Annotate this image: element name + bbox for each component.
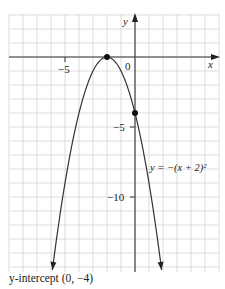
tick-label-y-neg10: −10 <box>107 191 125 203</box>
x-axis-label: x <box>207 58 213 70</box>
vertex-point <box>104 54 110 60</box>
tick-label-origin: 0 <box>125 60 131 72</box>
tick-label-y-neg5: −5 <box>113 121 125 133</box>
grid <box>9 14 219 272</box>
y-axis-arrow-icon <box>132 13 138 22</box>
parabola-chart: x y −5 0 −5 −10 y = −(x + 2)² <box>0 0 225 272</box>
y-axis-label: y <box>122 15 128 27</box>
y-intercept-point <box>132 110 138 116</box>
y-intercept-caption: y-intercept (0, −4) <box>9 272 93 284</box>
tick-label-x-neg5: −5 <box>58 63 70 75</box>
equation-label: y = −(x + 2)² <box>149 162 207 174</box>
